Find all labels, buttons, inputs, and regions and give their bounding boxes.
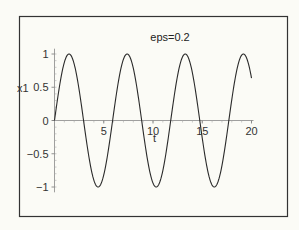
y-axis-label: x1	[17, 82, 29, 94]
x-tick-label: 5	[101, 125, 107, 137]
y-tick-label: 0.5	[33, 81, 48, 93]
y-tick-label: −1	[36, 181, 49, 193]
y-tick-label: 0	[42, 115, 48, 127]
y-tick-label: −0.5	[27, 148, 49, 160]
x-tick-label: 10	[147, 125, 159, 137]
x-tick-label: 20	[245, 125, 257, 137]
chart: eps=0.2 x1 t 10.50−0.5−15101520	[0, 0, 299, 230]
y-tick-label: 1	[42, 48, 48, 60]
plot-frame	[20, 17, 288, 217]
chart-title: eps=0.2	[150, 31, 189, 43]
